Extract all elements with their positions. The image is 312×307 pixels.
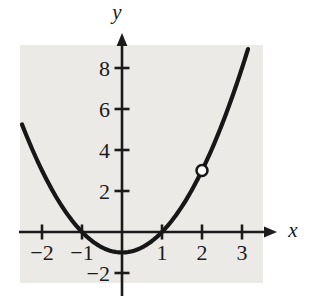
y-tick-label: 6 — [99, 97, 110, 122]
x-tick-label: −2 — [30, 240, 53, 265]
x-tick-label: 3 — [237, 240, 248, 265]
y-axis-arrowhead — [117, 33, 128, 46]
x-tick-label: 1 — [157, 240, 168, 265]
x-axis-label: x — [287, 218, 298, 242]
y-tick-label: 2 — [99, 179, 110, 204]
y-axis-label: y — [110, 0, 122, 24]
y-tick-label: −2 — [87, 261, 110, 286]
x-tick-label: 2 — [197, 240, 208, 265]
hole-open-circle — [197, 165, 208, 176]
parabola-graph: −2−1123−22468 y x — [0, 0, 312, 307]
y-tick-label: 8 — [99, 56, 110, 81]
x-axis-arrowhead — [264, 227, 277, 238]
y-tick-label: 4 — [99, 138, 110, 163]
figure-canvas: −2−1123−22468 y x — [0, 0, 312, 307]
